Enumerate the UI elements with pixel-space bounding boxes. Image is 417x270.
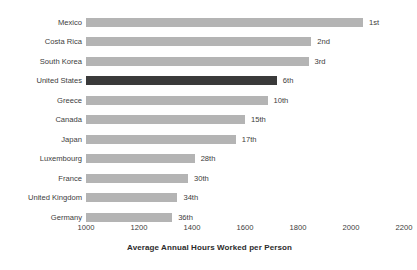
rank-label: 1st	[369, 13, 379, 33]
bar	[86, 115, 245, 124]
bar-track	[86, 135, 236, 144]
bar-row: Greece10th	[0, 91, 411, 111]
x-tick-label: 2000	[331, 222, 371, 234]
bar-track	[86, 76, 277, 85]
x-tick-label: 2200	[384, 222, 417, 234]
category-label: United States	[0, 71, 82, 91]
x-tick-label: 1400	[172, 222, 212, 234]
bar	[86, 57, 309, 66]
category-label: South Korea	[0, 52, 82, 72]
rank-label: 10th	[274, 91, 289, 111]
x-axis-title-text: Average Annual Hours Worked per Person	[127, 243, 292, 252]
bar-track	[86, 115, 245, 124]
bar-track	[86, 57, 309, 66]
x-tick-label: 1600	[225, 222, 265, 234]
bar-row: United Kingdom34th	[0, 188, 411, 208]
category-label: Luxembourg	[0, 149, 82, 169]
bar	[86, 18, 363, 27]
bar-track	[86, 154, 195, 163]
bar-track	[86, 18, 363, 27]
bar-row: France30th	[0, 169, 411, 189]
bar-row: Costa Rica2nd	[0, 32, 411, 52]
bar	[86, 174, 188, 183]
bar	[86, 135, 236, 144]
rank-label: 34th	[183, 188, 198, 208]
rank-label: 17th	[242, 130, 257, 150]
x-tick-label: 1000	[66, 222, 106, 234]
bar-track	[86, 174, 188, 183]
bar	[86, 193, 177, 202]
bar-row: South Korea3rd	[0, 52, 411, 72]
bar-track	[86, 193, 177, 202]
bar-track	[86, 213, 172, 222]
category-label: Greece	[0, 91, 82, 111]
rank-label: 30th	[194, 169, 209, 189]
bar-track	[86, 37, 311, 46]
bar	[86, 37, 311, 46]
category-label: France	[0, 169, 82, 189]
bar	[86, 213, 172, 222]
bar	[86, 76, 277, 85]
rank-label: 3rd	[315, 52, 326, 72]
bar-track	[86, 96, 268, 105]
bar	[86, 154, 195, 163]
rank-label: 15th	[251, 110, 266, 130]
category-label: United Kingdom	[0, 188, 82, 208]
rank-label: 2nd	[317, 32, 330, 52]
bar-row: United States6th	[0, 71, 411, 91]
bar	[86, 96, 268, 105]
category-label: Mexico	[0, 13, 82, 33]
category-label: Costa Rica	[0, 32, 82, 52]
x-tick-label: 1800	[278, 222, 318, 234]
x-axis-title: Average Annual Hours Worked per Person	[0, 243, 411, 252]
x-axis: 1000120014001600180020002200	[0, 222, 411, 236]
bar-row: Canada15th	[0, 110, 411, 130]
category-label: Japan	[0, 130, 82, 150]
category-label: Canada	[0, 110, 82, 130]
rank-label: 28th	[201, 149, 216, 169]
x-tick-label: 1200	[119, 222, 159, 234]
bar-row: Mexico1st	[0, 13, 411, 33]
bar-row: Japan17th	[0, 130, 411, 150]
rank-label: 6th	[283, 71, 294, 91]
bar-row: Luxembourg28th	[0, 149, 411, 169]
